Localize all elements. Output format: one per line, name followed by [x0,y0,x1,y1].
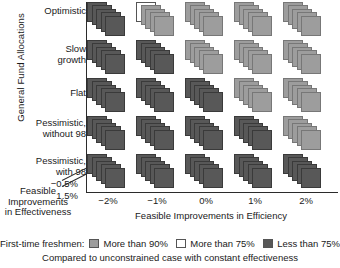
legend-note: Compared to unconstrained case with cons… [0,252,340,263]
legend-item: More than 90% [89,238,167,249]
row-label-line: with 98 [0,167,86,178]
chart-cell [234,2,282,38]
x-axis-title: Feasible Improvements in Efficiency [96,210,326,221]
chart-cell [234,78,282,114]
row-label-line: growth [0,55,86,66]
stack-card [203,92,223,112]
stack-card [154,54,174,74]
chart-cell [283,154,331,190]
stack-card [301,92,321,112]
legend-label: Less than 75% [277,238,340,249]
stack-card [252,16,272,36]
stack-card [105,130,125,150]
stack-card [154,92,174,112]
row-label-pessimistic-without-98: Pessimistic,without 98 [0,118,86,139]
chart-cell [234,116,282,152]
x-tick-label: 1% [237,195,273,206]
stack-card [301,16,321,36]
depth-axis-title: FeasibleImprovementsin Effectiveness [0,186,78,218]
plot-area [86,0,340,196]
chart-cell [136,116,184,152]
chart-cell [283,78,331,114]
chart-cell [185,78,233,114]
chart-cell [87,116,135,152]
chart-cell [283,116,331,152]
row-label-line: Pessimistic, [0,118,86,129]
legend-label: More than 90% [103,238,167,249]
y-axis-title: General Fund Allocations [15,4,26,132]
legend-title: First-time freshmen: [0,238,84,249]
stack-card [105,168,125,188]
legend-swatch-icon [263,239,273,248]
chart-cell [234,154,282,190]
stack-card [105,92,125,112]
legend-item: More than 75% [176,238,254,249]
x-tick-label: 2% [288,195,324,206]
stack-card [203,16,223,36]
row-label-optimistic: Optimistic [0,6,86,17]
legend: First-time freshmen: More than 90%More t… [0,236,340,250]
stack-card [252,92,272,112]
chart-cell [283,40,331,76]
row-label-line: without 98 [0,129,86,140]
depth-axis-title-line: Feasible [0,186,78,197]
row-label-line: Flat [0,88,86,99]
chart-cell [87,40,135,76]
legend-swatch-icon [89,239,99,248]
stack-card [105,54,125,74]
stack-card [203,130,223,150]
stack-card [301,130,321,150]
chart-cell [136,154,184,190]
x-tick-label: −1% [139,195,175,206]
depth-axis-title-line: in Effectiveness [0,207,78,218]
stack-card [203,54,223,74]
stack-card [105,16,125,36]
legend-label: More than 75% [190,238,254,249]
stack-card [301,168,321,188]
chart-cell [283,2,331,38]
chart-cell [136,40,184,76]
chart-cell [234,40,282,76]
chart-cell [87,154,135,190]
stack-card [154,130,174,150]
figure-canvas: General Fund Allocations Optimistic Slow… [0,0,340,268]
chart-cell [185,116,233,152]
stack-card [301,54,321,74]
chart-cell [185,154,233,190]
stack-card [154,16,174,36]
chart-cell [136,2,184,38]
stack-card [252,168,272,188]
chart-cell [185,40,233,76]
row-label-line: Slow [0,44,86,55]
stack-card [154,168,174,188]
stack-card [203,168,223,188]
stack-card [252,130,272,150]
chart-cell [136,78,184,114]
row-label-line: Optimistic [0,6,86,17]
x-tick-label: −2% [90,195,126,206]
row-label-line: Pessimistic, [0,156,86,167]
x-tick-label: 0% [188,195,224,206]
legend-item: Less than 75% [263,238,340,249]
chart-cell [87,2,135,38]
row-label-flat: Flat [0,88,86,99]
legend-swatch-icon [176,239,186,248]
stack-card [252,54,272,74]
chart-cell [185,2,233,38]
row-label-slow-growth: Slowgrowth [0,44,86,65]
chart-cell [87,78,135,114]
